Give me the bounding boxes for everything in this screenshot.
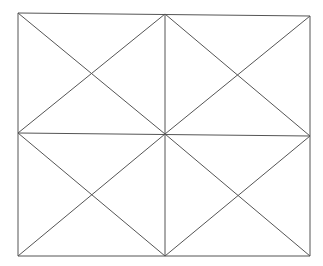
diagonal [18, 14, 165, 133]
diagonal [165, 16, 310, 134]
quadrant-diagonals-figure [0, 0, 323, 266]
